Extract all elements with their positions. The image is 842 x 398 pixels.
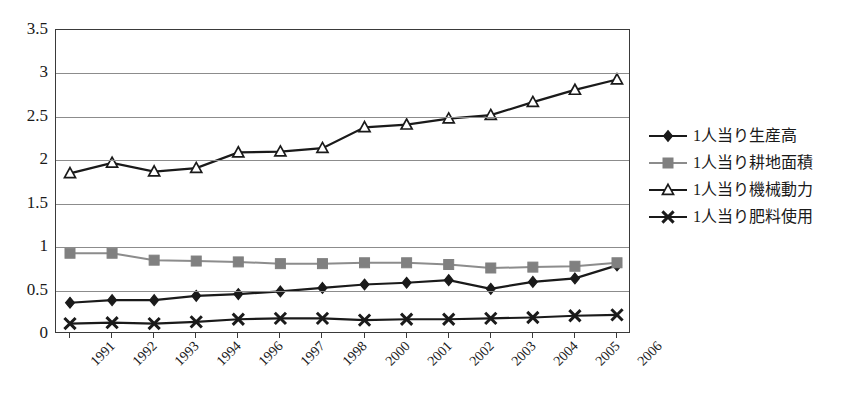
data-point-marker: [444, 260, 454, 270]
legend-item-3[interactable]: 1人当り機械動力: [648, 176, 838, 203]
x-tick-label: 2006: [635, 339, 665, 369]
x-tick-mark: [406, 333, 407, 338]
data-point-marker: [486, 283, 495, 294]
data-point-marker: [570, 261, 580, 271]
legend-item-label: 1人当り肥料使用: [693, 209, 813, 225]
data-point-marker: [486, 263, 496, 273]
x-tick-label: 1992: [130, 339, 160, 369]
gridline: [56, 117, 629, 118]
gridline: [56, 73, 629, 74]
data-point-marker: [402, 258, 412, 268]
data-point-marker: [192, 290, 201, 301]
x-tick-mark: [237, 333, 238, 338]
data-point-marker: [107, 157, 118, 167]
data-point-marker: [612, 258, 622, 268]
data-point-marker: [611, 74, 622, 84]
x-tick-label: 2001: [425, 339, 455, 369]
data-point-marker: [318, 283, 327, 294]
data-point-marker: [191, 256, 201, 266]
gridline: [56, 247, 629, 248]
y-tick-label: 2: [4, 150, 48, 167]
plot-area: [55, 29, 630, 333]
data-point-marker: [150, 295, 159, 306]
data-point-marker: [360, 258, 370, 268]
legend-item-4[interactable]: 1人当り肥料使用: [648, 203, 838, 230]
x-tick-label: 1996: [256, 339, 286, 369]
data-point-marker: [360, 279, 369, 290]
y-tick-label: 0.5: [4, 281, 48, 298]
data-point-marker: [149, 255, 159, 265]
series-3: [64, 74, 622, 178]
data-point-marker: [107, 248, 117, 258]
x-tick-label: 1994: [214, 339, 244, 369]
y-tick-label: 3.5: [4, 20, 48, 37]
legend-item-label: 1人当り耕地面積: [693, 155, 813, 171]
series-line: [70, 80, 617, 174]
x-tick-mark: [532, 333, 533, 338]
x-tick-label: 2005: [593, 339, 623, 369]
y-tick-label: 3: [4, 63, 48, 80]
y-tick-label: 1.5: [4, 194, 48, 211]
chart-page: 00.511.522.533.5 19911992199319941996199…: [0, 0, 842, 398]
x-tick-mark: [153, 333, 154, 338]
x-tick-mark: [321, 333, 322, 338]
chart-plot: [56, 30, 631, 334]
data-point-marker: [275, 259, 285, 269]
chart-legend: 1人当り生産高1人当り耕地面積1人当り機械動力1人当り肥料使用: [648, 122, 838, 230]
y-tick-label: 0: [4, 324, 48, 341]
y-axis: 00.511.522.533.5: [0, 0, 48, 398]
y-tick-label: 2.5: [4, 107, 48, 124]
triangle-marker-icon: [648, 181, 688, 199]
x-tick-label: 1998: [341, 339, 371, 369]
x-tick-mark: [69, 333, 70, 338]
data-point-marker: [528, 262, 538, 272]
legend-item-label: 1人当り機械動力: [693, 182, 813, 198]
x-tick-label: 2003: [509, 339, 539, 369]
square-marker-icon: [648, 154, 688, 172]
x-tick-mark: [111, 333, 112, 338]
data-point-marker: [570, 273, 579, 284]
diamond-marker-icon: [648, 127, 688, 145]
data-point-marker: [528, 276, 537, 287]
gridline: [56, 204, 629, 205]
x-tick-mark: [195, 333, 196, 338]
x-axis: 1991199219931994199619971998200020012002…: [55, 333, 630, 398]
gridline: [56, 160, 629, 161]
x-tick-mark: [490, 333, 491, 338]
data-point-marker: [317, 259, 327, 269]
x-tick-label: 1993: [172, 339, 202, 369]
cross-marker-icon: [648, 208, 688, 226]
series-4: [64, 309, 622, 329]
x-tick-label: 1997: [299, 339, 329, 369]
series-2: [65, 248, 622, 273]
x-tick-label: 1991: [88, 339, 118, 369]
x-tick-mark: [448, 333, 449, 338]
legend-item-2[interactable]: 1人当り耕地面積: [648, 149, 838, 176]
x-tick-mark: [279, 333, 280, 338]
x-tick-label: 2000: [383, 339, 413, 369]
x-tick-label: 2004: [551, 339, 581, 369]
data-point-marker: [108, 295, 117, 306]
legend-item-label: 1人当り生産高: [693, 128, 797, 144]
data-point-marker: [444, 275, 453, 286]
legend-item-1[interactable]: 1人当り生産高: [648, 122, 838, 149]
data-point-marker: [402, 277, 411, 288]
data-point-marker: [66, 297, 75, 308]
x-tick-label: 2002: [467, 339, 497, 369]
x-tick-mark: [574, 333, 575, 338]
data-point-marker: [65, 248, 75, 258]
data-point-marker: [233, 257, 243, 267]
y-tick-label: 1: [4, 237, 48, 254]
gridline: [56, 291, 629, 292]
x-tick-mark: [616, 333, 617, 338]
x-tick-mark: [364, 333, 365, 338]
